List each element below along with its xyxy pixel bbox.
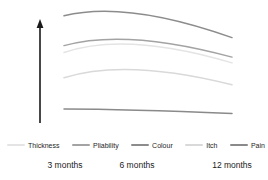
thickness-line-swatch [7, 144, 25, 146]
legend-label-pain: Pain [251, 142, 265, 149]
plot-area [0, 0, 268, 180]
legend-item-pain: Pain [230, 142, 265, 149]
curve-thickness [64, 44, 232, 63]
colour-line-swatch [131, 144, 149, 146]
pliability-line-swatch [72, 144, 90, 146]
curve-pain [64, 109, 232, 114]
x-tick-12-months: 12 months [212, 160, 252, 170]
legend-item-thickness: Thickness [7, 142, 60, 149]
legend-label-colour: Colour [152, 142, 173, 149]
burn-scar-severity-chart: Increasing severity of burn scar charact… [0, 0, 268, 180]
curve-itch [64, 70, 232, 85]
pain-line-swatch [230, 144, 248, 146]
x-tick-6-months: 6 months [120, 160, 155, 170]
curve-pliability [64, 39, 232, 57]
legend: Thickness Pliability Colour Itch Pain [7, 139, 265, 151]
legend-item-colour: Colour [131, 142, 173, 149]
y-axis-arrow [37, 19, 44, 123]
legend-label-thickness: Thickness [28, 142, 60, 149]
legend-label-pliability: Pliability [93, 142, 119, 149]
legend-label-itch: Itch [206, 142, 217, 149]
curve-colour [64, 11, 232, 37]
legend-item-pliability: Pliability [72, 142, 119, 149]
series-curves [64, 11, 232, 113]
legend-item-itch: Itch [185, 142, 217, 149]
x-tick-3-months: 3 months [48, 160, 83, 170]
itch-line-swatch [185, 144, 203, 146]
